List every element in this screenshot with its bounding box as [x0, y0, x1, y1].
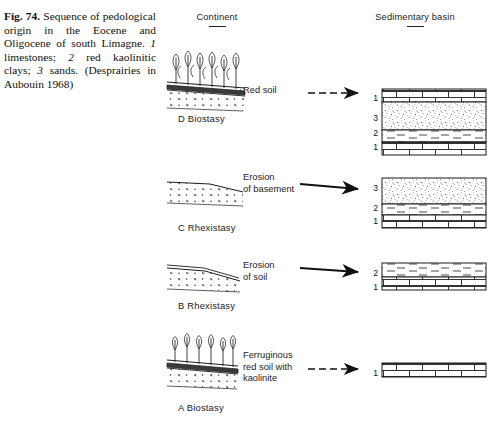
continent-header-label: Continent — [196, 12, 237, 22]
basin-layer-number-c-3: 1 — [369, 216, 378, 226]
basin-layer-c-limestone — [382, 215, 486, 228]
basin-layer-number-c-1: 3 — [369, 183, 378, 193]
annotation-panel-c: Erosion of basement — [243, 172, 294, 195]
figure-caption: Fig. 74. Sequence of pedological origin … — [4, 10, 156, 92]
sedimentary-basin-header: Sedimentary basin — [340, 12, 490, 27]
basin-column-c — [382, 178, 486, 228]
basin-column-d — [382, 89, 486, 155]
continent-header: Continent — [172, 12, 262, 27]
legend-key-1-number: 1 — [150, 37, 156, 49]
sedimentary-basin-header-label: Sedimentary basin — [375, 12, 455, 22]
panel-label-c: C Rhexistasy — [178, 222, 236, 233]
vegetation-d — [173, 51, 239, 89]
sedimentary-basin-header-rule — [407, 26, 424, 27]
basin-layer-number-d-3: 2 — [369, 128, 378, 138]
legend-key-1-text: limestones; — [4, 51, 68, 63]
panel-label-d: D Biostasy — [178, 113, 225, 124]
panel-label-b: B Rhexistasy — [178, 300, 235, 311]
basin-layer-b-clay — [382, 263, 486, 277]
figure-number: Fig. 74. — [4, 10, 40, 22]
annotation-panel-a: Ferruginous red soil with kaolinite — [243, 350, 293, 385]
basin-layer-c-clay — [382, 204, 486, 215]
basin-layer-d-clay — [382, 130, 486, 142]
basin-layer-number-c-2: 2 — [369, 203, 378, 213]
basin-layer-number-d-4: 1 — [369, 142, 378, 152]
vegetation-a — [172, 334, 235, 368]
annotation-panel-d: Red soil — [243, 85, 277, 97]
transfer-arrow-c — [300, 184, 358, 189]
basin-layer-b-limestone — [382, 277, 486, 290]
basin-layer-c-sand — [382, 178, 486, 204]
continent-header-rule — [209, 26, 226, 27]
continent-profile-d — [167, 51, 245, 111]
panel-label-a: A Biostasy — [178, 402, 224, 413]
basin-layer-number-b-1: 2 — [369, 268, 378, 278]
basin-column-b — [382, 263, 486, 290]
continent-profile-c — [167, 182, 243, 206]
basin-column-a — [382, 363, 486, 377]
continent-profile-a — [167, 334, 238, 390]
basin-layer-number-d-2: 3 — [369, 113, 378, 123]
transfer-arrow-b — [300, 268, 358, 272]
basin-layer-a-limestone — [382, 363, 486, 377]
basin-layer-number-a-1: 1 — [369, 368, 378, 378]
basin-layer-d-limestone-base — [382, 142, 486, 155]
basin-layer-number-b-2: 1 — [369, 282, 378, 292]
continent-profile-b — [167, 265, 240, 292]
basin-layer-d-limestone-top — [382, 89, 486, 102]
basin-layer-number-d-1: 1 — [369, 93, 378, 103]
annotation-panel-b: Erosion of soil — [243, 260, 275, 283]
basin-layer-d-sand — [382, 102, 486, 130]
